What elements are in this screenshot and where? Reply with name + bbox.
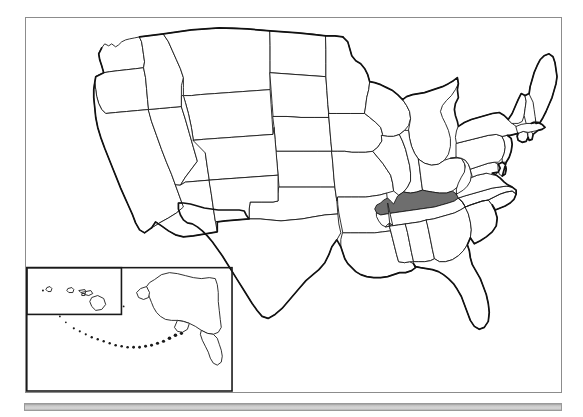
state-kansas [276, 151, 335, 187]
alaska-seward-peninsula [137, 287, 150, 300]
insets-group [27, 268, 232, 391]
state-south-dakota [270, 73, 329, 118]
alaska-kenai-kodiak [174, 320, 189, 332]
island-maui [85, 291, 93, 296]
screenshot-page [0, 0, 583, 417]
island-hawaii-big [90, 296, 106, 311]
island-lanai [82, 294, 85, 296]
island-niihau [42, 290, 44, 292]
bottom-divider-bar [24, 403, 562, 411]
state-nebraska [273, 116, 332, 151]
island-kauai [46, 287, 52, 292]
state-wyoming [183, 90, 273, 141]
state-minnesota [326, 36, 370, 114]
state-vermont [508, 94, 526, 124]
state-north-dakota [270, 31, 326, 77]
state-washington [99, 37, 145, 73]
alaska-landmass [59, 273, 222, 366]
alaska-southeast-panhandle [200, 330, 222, 365]
hawaii-islands [42, 287, 106, 311]
us-map-svg [26, 18, 561, 392]
island-molokai [79, 290, 86, 293]
state-oregon [95, 68, 149, 114]
map-frame [25, 17, 562, 393]
island-oahu [67, 288, 74, 293]
hawaii-inset-box [27, 268, 122, 315]
